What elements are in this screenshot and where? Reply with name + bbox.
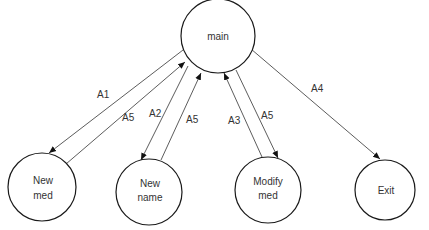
- edge-label-a2: A2: [149, 108, 162, 119]
- node-label-modify-med-line2: med: [258, 190, 277, 201]
- node-label-main: main: [207, 31, 229, 42]
- node-modify-med[interactable]: Modify med: [235, 157, 301, 223]
- node-new-name[interactable]: New name: [116, 159, 182, 225]
- edge-label-a5-new-med: A5: [122, 112, 135, 123]
- edge-label-a1: A1: [97, 89, 110, 100]
- edge-label-a3: A3: [228, 115, 241, 126]
- node-label-new-name-line1: New: [140, 178, 161, 189]
- node-label-exit: Exit: [378, 185, 395, 196]
- edge-label-a4: A4: [311, 83, 324, 94]
- node-label-new-name-line2: name: [137, 192, 162, 203]
- edge-label-a5-modify-med: A5: [261, 110, 274, 121]
- node-label-new-med-line1: New: [33, 175, 54, 186]
- node-new-med[interactable]: New med: [8, 153, 76, 221]
- edge-label-a5-new-name: A5: [186, 114, 199, 125]
- node-label-modify-med-line1: Modify: [253, 176, 282, 187]
- node-label-new-med-line2: med: [33, 190, 52, 201]
- node-exit[interactable]: Exit: [355, 160, 415, 220]
- diagram-canvas: A1 A5 A2 A5 A3 A5 A4 main New med New na…: [0, 0, 429, 230]
- edge-a1-main-to-new-med[interactable]: [49, 50, 183, 153]
- node-main[interactable]: main: [181, 0, 255, 73]
